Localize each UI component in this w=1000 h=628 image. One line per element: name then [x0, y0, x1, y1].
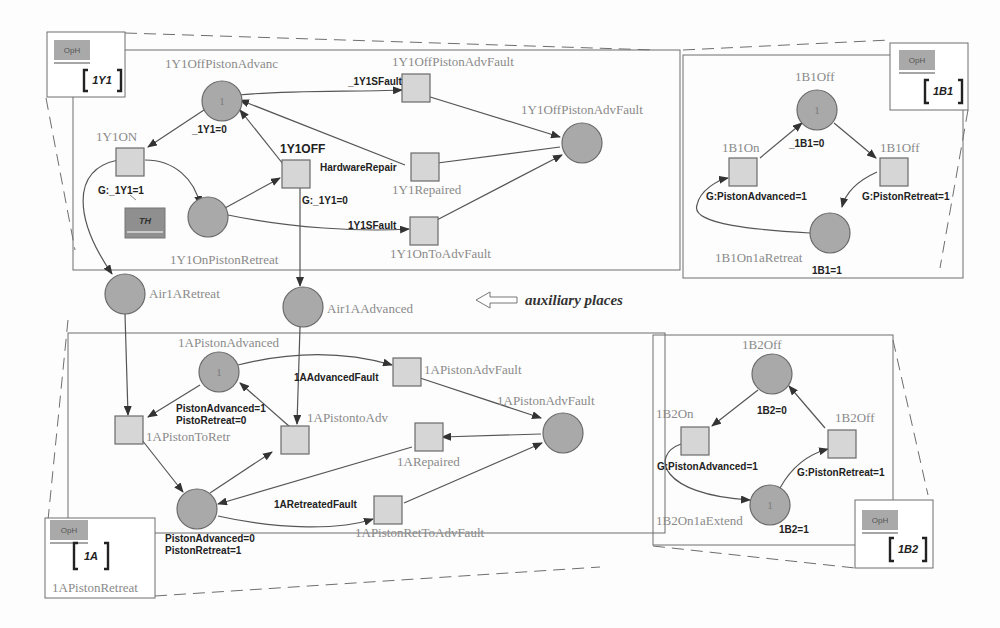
petri-net-diagram: 1 1Y1OffPistonAdvanc 1Y1OnPistonRetreat … — [0, 0, 1000, 628]
token-count: 1 — [219, 95, 225, 107]
transition-label: 1Y1ON — [96, 129, 138, 144]
oph-button-label[interactable]: OpH — [909, 56, 926, 65]
place-1a-piston-adv-fault[interactable] — [543, 413, 583, 453]
place-label: 1B1Off — [795, 69, 835, 84]
place-label: 1B1On1aRetreat — [715, 250, 803, 265]
place-label: 1B2On1aExtend — [656, 513, 743, 528]
place-1a-piston-retreat[interactable] — [177, 489, 217, 529]
transition-label: 1Y1OFF — [280, 142, 325, 156]
dashed-line — [46, 98, 75, 250]
transition-1y1-off-piston-adv-fault[interactable] — [402, 74, 430, 102]
th-box[interactable]: TH — [125, 208, 165, 238]
oph-box-1b1[interactable]: OpH 1B1 — [890, 43, 968, 110]
transition-1a-piston-ret-to-adv-fault[interactable] — [374, 496, 402, 524]
place-1b2-off[interactable] — [752, 354, 792, 394]
dashed-line — [683, 40, 890, 50]
event-label: 1AAdvancedFault — [294, 372, 379, 383]
transition-label: 1B1On — [722, 140, 760, 155]
place-label: 1Y1OffPistonAdvanc — [165, 56, 278, 71]
auxiliary-places-annotation: auxiliary places — [476, 292, 623, 308]
guard-label: G:PistonRetreat=1 — [862, 191, 950, 202]
transition-1a-repaired[interactable] — [415, 423, 443, 451]
transition-1y1-off[interactable] — [282, 160, 310, 188]
dashed-line — [940, 110, 968, 268]
arc-label: _1Y1=0 — [191, 124, 227, 135]
guard-label: G:PistonRetreat=1 — [797, 467, 885, 478]
place-note: PistoRetreat=0 — [176, 415, 247, 426]
hollow-arrow-left-icon — [476, 292, 517, 308]
transition-label: 1APistontoAdv — [307, 410, 388, 425]
oph-caption: 1APistonRetreat — [52, 580, 138, 595]
oph-box-1a[interactable]: OpH 1A 1APistonRetreat — [45, 518, 155, 598]
place-note: 1B2=1 — [779, 524, 809, 535]
dashed-line — [125, 33, 655, 50]
oph-name: 1B1 — [933, 85, 953, 97]
oph-box-1b2[interactable]: OpH 1B2 — [855, 500, 933, 568]
place-note: PistonRetreat=1 — [165, 545, 242, 556]
oph-name: 1A — [84, 550, 98, 562]
token-count: 1 — [767, 499, 773, 511]
annotation-text: auxiliary places — [525, 292, 623, 308]
place-label: 1B2Off — [742, 337, 782, 352]
place-note: PistonAdvanced=1 — [176, 403, 266, 414]
guard-label: G:PistonAdvanced=1 — [657, 461, 758, 472]
place-note: PistonAdvanced=0 — [165, 533, 255, 544]
transition-label: 1Y1Repaired — [392, 182, 462, 197]
place-note: 1B2=0 — [757, 405, 787, 416]
transition-1b2-on[interactable] — [681, 427, 709, 455]
event-label: _1Y1SFault — [347, 76, 403, 87]
place-note: 1B1=1 — [812, 265, 842, 276]
transition-label: 1ARepaired — [397, 454, 460, 469]
place-label: Air1AAdvanced — [327, 301, 413, 316]
place-1b1-on1a-retreat[interactable] — [810, 213, 850, 253]
transition-1b1-on[interactable] — [729, 158, 757, 186]
transition-label: 1APistonToRetr — [146, 429, 231, 444]
guard-label: G:_1Y1=0 — [302, 195, 348, 206]
place-1y1-off-piston-adv-fault[interactable] — [562, 123, 602, 163]
token-count: 1 — [216, 366, 222, 378]
place-1y1-on-piston-retreat[interactable] — [188, 197, 228, 237]
place-air1a-retreat[interactable] — [105, 274, 145, 314]
transition-1a-piston-to-retr[interactable] — [115, 416, 143, 444]
th-label: TH — [139, 216, 151, 226]
transition-1a-piston-adv-fault[interactable] — [393, 358, 421, 386]
transition-label: 1B2Off — [835, 410, 875, 425]
transition-1b1-off[interactable] — [880, 158, 908, 186]
transition-1y1-on[interactable] — [116, 148, 144, 176]
dashed-line — [653, 546, 855, 568]
transition-label: 1B1Off — [880, 140, 920, 155]
event-label: HardwareRepair — [320, 162, 397, 173]
guard-label: G:PistonAdvanced=1 — [706, 191, 807, 202]
transition-1b2-off[interactable] — [828, 430, 856, 458]
oph-name: 1B2 — [898, 543, 918, 555]
oph-name: 1Y1 — [92, 74, 112, 86]
transition-1y1-on-to-adv-fault[interactable] — [410, 217, 438, 245]
place-air1a-advanced[interactable] — [283, 287, 323, 327]
oph-button-label[interactable]: OpH — [872, 516, 889, 525]
transition-label: 1Y1OnToAdvFault — [390, 246, 491, 261]
transition-label: 1APistonRetToAdvFault — [355, 525, 484, 540]
oph-button-label[interactable]: OpH — [61, 526, 78, 535]
event-label: 1ARetreatedFault — [274, 499, 357, 510]
dashed-line — [48, 320, 68, 520]
diagram-svg: 1 1Y1OffPistonAdvanc 1Y1OnPistonRetreat … — [0, 0, 1000, 628]
place-label: 1Y1OffPistonAdvFault — [521, 102, 643, 117]
place-label: 1APistonAdvanced — [178, 335, 280, 350]
event-label: 1Y1SFault — [348, 220, 397, 231]
transition-label: 1B2On — [656, 406, 694, 421]
arc-label: _1B1=0 — [788, 138, 825, 149]
place-label: 1APistonAdvFault — [497, 393, 595, 408]
place-label: Air1ARetreat — [149, 286, 220, 301]
token-count: 1 — [814, 104, 820, 116]
transition-label: 1Y1OffPistonAdvFault — [392, 54, 514, 69]
dashed-line — [155, 567, 600, 596]
dashed-line — [893, 340, 928, 495]
transition-1y1-repaired[interactable] — [411, 153, 439, 181]
place-label: 1Y1OnPistonRetreat — [170, 252, 279, 267]
oph-button-label[interactable]: OpH — [64, 46, 81, 55]
guard-label: G:_1Y1=1 — [98, 185, 144, 196]
transition-1a-pistonto-adv[interactable] — [281, 426, 309, 454]
oph-box-1y1[interactable]: OpH 1Y1 — [47, 32, 125, 97]
transition-label: 1APistonAdvFault — [424, 362, 522, 377]
